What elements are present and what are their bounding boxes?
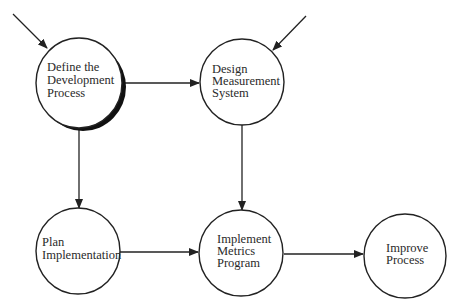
label-line: System xyxy=(212,86,249,100)
node-improve: Improve Process xyxy=(364,214,446,298)
label-line: Development xyxy=(47,73,115,87)
label-line: Plan xyxy=(42,235,65,249)
node-design: Design Measurement System xyxy=(200,39,284,125)
label-line: Implementation xyxy=(42,248,122,262)
edge-external-to-define xyxy=(13,14,47,48)
edge-external-to-design xyxy=(273,16,306,50)
label-line: Process xyxy=(386,253,424,267)
label-line: Program xyxy=(217,256,260,270)
node-implement: Implement Metrics Program xyxy=(199,210,283,296)
process-diagram: Define the Development Process Design Me… xyxy=(0,0,459,308)
node-plan: Plan Implementation xyxy=(36,208,122,294)
node-define: Define the Development Process xyxy=(36,38,126,131)
label-line: Define the xyxy=(47,60,100,74)
label-line: Process xyxy=(47,86,85,100)
